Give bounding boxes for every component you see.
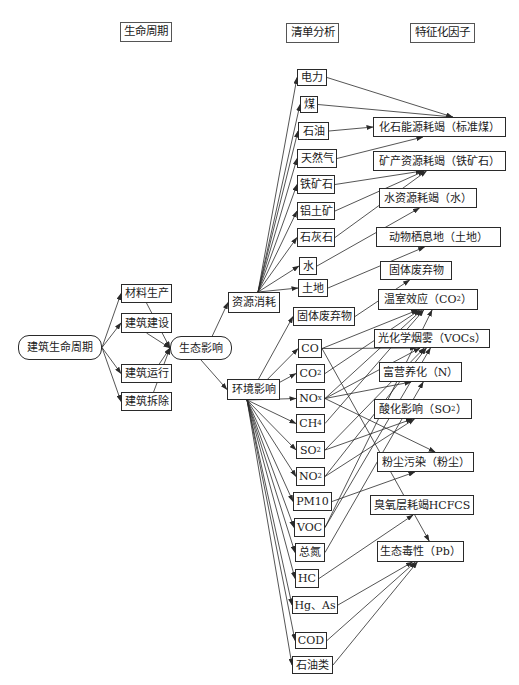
characterization-factor-node: 水资源耗竭（水） — [379, 188, 477, 208]
emission-inventory-node-subscript: x — [318, 395, 322, 402]
arrow-res-to-r3 — [258, 131, 298, 292]
emission-inventory-node-label: VOC — [297, 522, 322, 533]
resource-inventory-node: 石灰石 — [297, 228, 335, 247]
resource-inventory-node-label: 铁矿石 — [300, 179, 333, 190]
resource-inventory-node: 电力 — [297, 69, 327, 86]
arrow-env-to-e14 — [247, 400, 292, 665]
emission-inventory-node: COD — [295, 632, 327, 649]
lifecycle-stage-node-label: 材料生产 — [125, 288, 169, 299]
arrow-e14-to-f12 — [333, 562, 417, 665]
resource-inventory-node: 天然气 — [297, 149, 337, 168]
resource-inventory-node-label: 铝土矿 — [300, 206, 333, 217]
emission-inventory-node: SO2 — [296, 441, 325, 459]
impact-category-node: 资源消耗 — [228, 292, 280, 313]
resource-inventory-node-label: 电力 — [301, 72, 323, 83]
arrow-res-to-r2 — [258, 105, 300, 293]
arrow-env-to-e10 — [247, 400, 295, 553]
characterization-factor-node-label: 动物栖息地（土地） — [389, 232, 488, 243]
resource-inventory-node: 铝土矿 — [297, 202, 335, 220]
characterization-factor-node: 温室效应（CO2） — [378, 289, 478, 310]
impact-category-node-label: 环境影响 — [232, 384, 276, 395]
emission-inventory-node: NO2 — [296, 467, 325, 486]
emission-inventory-node: VOC — [294, 518, 325, 537]
characterization-factor-node-label: 矿产资源耗竭（铁矿石） — [379, 156, 500, 167]
characterization-factor-node: 固体废弃物 — [380, 261, 452, 280]
characterization-factor-node-label-tail: ） — [461, 294, 472, 305]
lifecycle-stage-node: 建筑运行 — [121, 364, 172, 383]
emission-inventory-node: PM10 — [293, 492, 332, 511]
emission-inventory-node-label: 总氮 — [299, 547, 321, 558]
impact-category-node: 环境影响 — [227, 379, 280, 400]
characterization-factor-node-label: 臭氧层耗竭HCFCS — [374, 500, 471, 511]
emission-inventory-node: 固体废弃物 — [293, 307, 355, 326]
column-header-h3-label: 特征化因子 — [415, 27, 470, 39]
characterization-factor-node-label: 生态毒性（Pb） — [380, 546, 460, 557]
resource-inventory-node-label: 水 — [303, 261, 314, 272]
emission-inventory-node-label: PM10 — [296, 496, 329, 507]
emission-inventory-node: Hg、As — [292, 596, 338, 614]
emission-inventory-node-label: CH — [299, 418, 317, 429]
characterization-factor-node: 生态毒性（Pb） — [377, 541, 464, 562]
characterization-factor-node-label: 酸化影响（SO — [379, 404, 451, 415]
emission-inventory-node: HC — [295, 569, 319, 588]
lifecycle-root-node-label: 建筑生命周期 — [27, 342, 93, 353]
arrow-res-to-r5 — [258, 185, 297, 293]
impact-category-node-label: 资源消耗 — [232, 297, 276, 308]
lifecycle-stage-node-label: 建筑运行 — [125, 368, 169, 379]
arrow-e4-to-f8 — [325, 382, 411, 399]
emission-inventory-node: CH4 — [296, 414, 325, 433]
resource-inventory-node-label: 石油 — [303, 126, 325, 137]
characterization-factor-node-label: 水资源耗竭（水） — [384, 193, 472, 204]
arrow-root-to-s2 — [102, 323, 121, 348]
resource-inventory-node: 石油 — [298, 122, 329, 140]
emission-inventory-node: CO2 — [296, 364, 325, 383]
column-header-h2: 清单分析 — [286, 23, 339, 43]
arrow-eco-to-env — [201, 360, 227, 390]
emission-inventory-node-subscript: 2 — [317, 370, 321, 377]
emission-inventory-node-label: HC — [298, 573, 316, 584]
lifecycle-stage-node: 建筑拆除 — [121, 392, 172, 411]
arrow-env-to-e12 — [247, 400, 292, 605]
arrow-res-to-r1 — [258, 78, 297, 293]
resource-inventory-node-label: 煤 — [304, 99, 315, 110]
eco-impact-node-label: 生态影响 — [179, 343, 223, 354]
characterization-factor-node: 粉尘污染（粉尘） — [377, 452, 474, 472]
emission-inventory-node-subscript: 2 — [317, 447, 321, 454]
emission-inventory-node-subscript: 2 — [318, 473, 322, 480]
column-header-h1-label: 生命周期 — [124, 26, 168, 38]
resource-inventory-node-label: 天然气 — [301, 153, 334, 164]
arrow-e12-to-f12 — [338, 562, 413, 605]
characterization-factor-node-label: 光化学烟雾（VOCs） — [378, 333, 486, 344]
resource-inventory-node: 煤 — [300, 96, 318, 113]
emission-inventory-node-label: CO — [300, 368, 317, 379]
characterization-factor-node-label: 富营养化（N） — [383, 367, 459, 378]
arrow-root-to-s1 — [102, 294, 121, 348]
emission-inventory-node: 总氮 — [295, 543, 325, 562]
arrow-e2-to-f7 — [322, 348, 416, 349]
arrow-r3-to-f1 — [329, 127, 373, 131]
emission-inventory-node: 石油类 — [292, 656, 333, 674]
characterization-factor-node-label-tail: ） — [456, 404, 467, 415]
resource-inventory-node-label: 土地 — [302, 283, 324, 294]
characterization-factor-node: 光化学烟雾（VOCs） — [374, 329, 490, 348]
resource-inventory-node: 铁矿石 — [297, 175, 335, 194]
emission-inventory-node-label: SO — [300, 445, 317, 456]
lifecycle-stage-node: 建筑建设 — [121, 313, 172, 333]
characterization-factor-node-label: 温室效应（CO — [384, 294, 456, 305]
emission-inventory-node-label: NO — [299, 393, 318, 404]
characterization-factor-node: 酸化影响（SO2） — [374, 399, 472, 419]
characterization-factor-node-label: 固体废弃物 — [389, 265, 444, 276]
characterization-factor-node: 富营养化（N） — [379, 362, 462, 382]
eco-impact-node: 生态影响 — [170, 336, 232, 360]
arrow-res-to-r4 — [258, 159, 297, 293]
emission-inventory-node-label: 固体废弃物 — [297, 311, 352, 322]
lifecycle-stage-node-label: 建筑建设 — [125, 318, 169, 329]
resource-inventory-node-label: 石灰石 — [300, 232, 333, 243]
characterization-factor-node: 臭氧层耗竭HCFCS — [370, 495, 474, 515]
resource-inventory-node: 水 — [299, 257, 317, 275]
lifecycle-stage-node-label: 建筑拆除 — [125, 396, 169, 407]
arrow-root-to-s4 — [102, 348, 121, 402]
emission-inventory-node-label: Hg、As — [294, 600, 335, 611]
resource-inventory-node: 土地 — [298, 279, 328, 297]
emission-inventory-node-label: NO — [299, 471, 318, 482]
